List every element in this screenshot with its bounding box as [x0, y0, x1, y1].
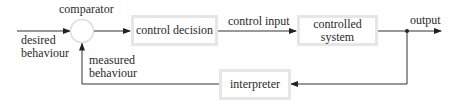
output-label: output: [410, 14, 441, 27]
comparator-label: comparator: [59, 3, 114, 16]
control-input-label: control input: [228, 15, 290, 28]
measured-behaviour-label: measured behaviour: [89, 54, 137, 80]
controlled-system-label-line1: controlled: [313, 18, 362, 31]
controlled-system-box: controlled system: [297, 15, 378, 46]
desired-behaviour-label: desired behaviour: [21, 34, 69, 60]
measured-label-line2: behaviour: [89, 67, 137, 80]
control-decision-label: control decision: [136, 24, 213, 37]
interpreter-label: interpreter: [230, 78, 280, 91]
controlled-system-label-line2: system: [321, 31, 354, 44]
comparator-circle: [71, 20, 94, 43]
desired-label-line2: behaviour: [21, 47, 69, 60]
control-decision-box: control decision: [131, 15, 218, 46]
interpreter-box: interpreter: [219, 69, 291, 100]
